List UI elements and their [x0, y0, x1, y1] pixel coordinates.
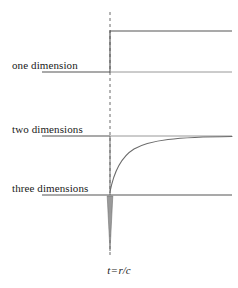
axis-caption-equals: =: [110, 264, 118, 276]
two-dimensions-decay-curve: [110, 137, 232, 193]
figure-canvas: [0, 0, 238, 288]
row-label-one-dimension: one dimension: [12, 60, 78, 71]
three-dimensions-delta-spike: [107, 196, 113, 251]
row-label-three-dimensions: three dimensions: [12, 183, 88, 194]
axis-caption-speed-var: c: [126, 264, 131, 276]
panel-three-dimensions: [42, 195, 232, 251]
row-label-two-dimensions: two dimensions: [12, 124, 83, 135]
axis-caption: t=r/c: [0, 265, 238, 276]
wave-propagation-figure: one dimension two dimensions three dimen…: [0, 0, 238, 288]
